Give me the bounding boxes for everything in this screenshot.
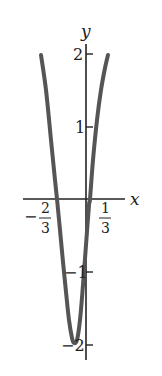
svg-text:1: 1 [101, 200, 110, 216]
x-axis-label: x [130, 189, 140, 209]
function-graph: y x 2 1 −1 −2 − 2 3 1 3 [0, 0, 162, 376]
svg-text:−: − [24, 207, 37, 226]
y-axis-label: y [80, 21, 91, 41]
x-tick-label-neg-two-thirds: − 2 3 [24, 200, 51, 236]
svg-text:2: 2 [41, 200, 50, 216]
y-tick-label-neg1: −1 [64, 263, 88, 282]
y-tick-label-2: 2 [73, 45, 83, 64]
svg-text:3: 3 [101, 220, 110, 236]
y-tick-label-neg2: −2 [61, 336, 85, 355]
x-tick-label-one-third: 1 3 [99, 200, 111, 236]
y-tick-label-1: 1 [75, 118, 85, 137]
svg-text:3: 3 [41, 220, 50, 236]
